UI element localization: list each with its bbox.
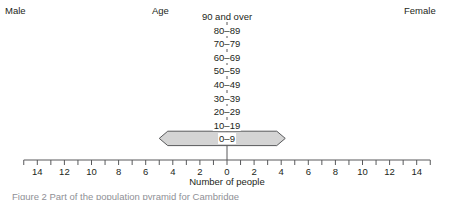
x-tick-label: 12	[384, 166, 395, 177]
age-band-label: 50–59	[213, 65, 241, 76]
age-band-label: 30–39	[213, 93, 241, 104]
x-tick-label: 4	[170, 166, 175, 177]
age-band-label: 70–79	[213, 38, 241, 49]
x-tick-label: 8	[116, 166, 121, 177]
x-tick-label: 10	[86, 166, 97, 177]
age-band-label: 90 and over	[201, 11, 253, 22]
figure-caption: Figure 2 Part of the population pyramid …	[12, 191, 239, 200]
population-pyramid-figure: Male Age Female 90 and over80–8970–7960–…	[0, 0, 453, 200]
age-band-label: 0–9	[218, 133, 236, 144]
x-axis	[24, 160, 431, 165]
x-tick-label: 4	[279, 166, 284, 177]
x-tick-label: 6	[143, 166, 148, 177]
x-tick-label: 6	[306, 166, 311, 177]
age-band-label: 20–29	[213, 106, 241, 117]
x-tick-label: 12	[59, 166, 70, 177]
age-band-label: 80–89	[213, 25, 241, 36]
x-axis-title: Number of people	[189, 176, 265, 187]
x-tick-label: 10	[357, 166, 368, 177]
age-band-label: 10–19	[213, 120, 241, 131]
age-band-label: 60–69	[213, 52, 241, 63]
x-tick-label: 8	[333, 166, 338, 177]
x-tick-label: 14	[32, 166, 43, 177]
x-tick-label: 14	[411, 166, 422, 177]
age-band-label: 40–49	[213, 79, 241, 90]
